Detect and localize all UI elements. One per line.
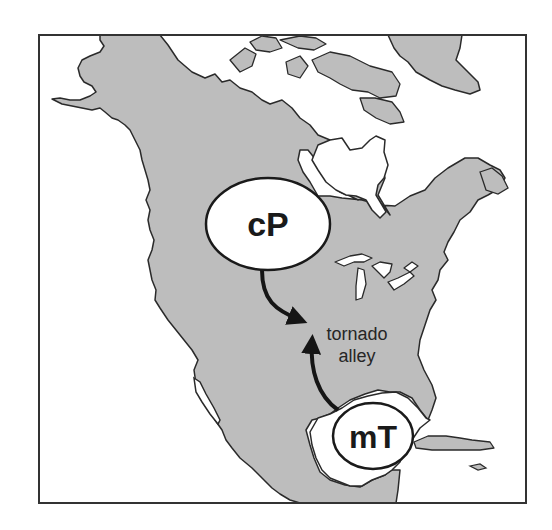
air-mass-cp-label: cP [247, 205, 289, 243]
hispaniola [470, 464, 486, 470]
tornado-alley-label-line2: alley [338, 346, 375, 366]
cuba [414, 436, 494, 450]
air-mass-cp: cP [206, 178, 330, 270]
air-mass-mt: mT [333, 403, 413, 469]
air-mass-map: cP mT tornado alley [0, 0, 552, 530]
air-mass-mt-label: mT [349, 419, 397, 455]
greenland [388, 35, 480, 94]
tornado-alley-label-line1: tornado [326, 324, 387, 344]
